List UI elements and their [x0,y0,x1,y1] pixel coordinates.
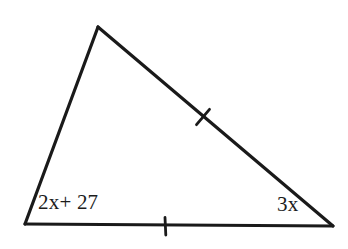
triangle-side-base [25,224,333,226]
angle-label-left: 2x+ 27 [38,192,98,213]
geometry-figure: 2x+ 27 3x [0,0,348,249]
angle-label-right: 3x [277,194,298,215]
base-tick-icon [165,218,166,236]
